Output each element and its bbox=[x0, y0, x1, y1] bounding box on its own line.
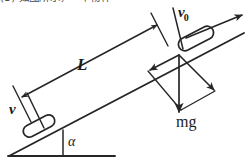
dimension-line-L bbox=[22, 25, 157, 97]
label-v: v bbox=[9, 101, 16, 118]
label-v0-subscript: 0 bbox=[184, 12, 189, 23]
vector-mg-parallel bbox=[150, 55, 179, 70]
force-parallelogram bbox=[148, 71, 215, 110]
diagram-canvas bbox=[0, 0, 246, 163]
dimension-tick-right bbox=[151, 13, 168, 46]
label-L: L bbox=[77, 55, 87, 75]
vector-mg-perpendicular bbox=[179, 55, 214, 90]
label-v0: v0 bbox=[178, 4, 189, 23]
label-alpha: α bbox=[68, 134, 75, 150]
label-mg: mg bbox=[176, 113, 196, 131]
figure-root: (3) 如图所示，一个物体 bbox=[0, 0, 246, 163]
